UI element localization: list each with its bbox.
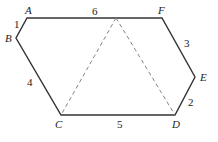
- vertex-label-A: A: [24, 4, 32, 16]
- vertex-label-C: C: [55, 118, 63, 130]
- side-length-AF: 6: [92, 5, 98, 17]
- vertex-label-D: D: [171, 118, 180, 130]
- dashed-line-to-D: [116, 18, 175, 115]
- vertex-label-B: B: [5, 32, 12, 44]
- side-length-ED: 2: [188, 96, 194, 108]
- hexagon-outline: [16, 18, 195, 115]
- vertex-label-E: E: [199, 71, 207, 83]
- side-length-AB: 1: [14, 18, 20, 30]
- dashed-line-to-C: [61, 18, 116, 115]
- vertex-label-F: F: [157, 4, 165, 16]
- side-length-FE: 3: [184, 37, 190, 49]
- side-length-CB: 4: [27, 76, 33, 88]
- side-length-DC: 5: [117, 118, 123, 130]
- hexagon-diagram: ABCDEF163254: [0, 0, 218, 142]
